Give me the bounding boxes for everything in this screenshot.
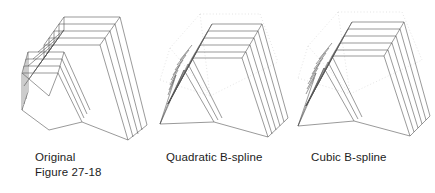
quadratic-bspline-mesh-diagram	[150, 0, 300, 145]
caption-cubic: Cubic B-spline	[311, 150, 387, 165]
panel-cubic	[290, 0, 435, 145]
panel-original	[2, 0, 152, 145]
caption-cubic-line1: Cubic B-spline	[311, 150, 387, 165]
panel-quadratic	[150, 0, 300, 145]
caption-original-line1: Original	[35, 150, 101, 165]
control-polygon-dotted	[298, 12, 422, 94]
caption-quadratic: Quadratic B-spline	[166, 150, 262, 165]
caption-original-line2: Figure 27-18	[35, 165, 101, 180]
caption-quadratic-line1: Quadratic B-spline	[166, 150, 262, 165]
cubic-bspline-mesh-diagram	[290, 0, 435, 145]
caption-original: Original Figure 27-18	[35, 150, 101, 179]
original-mesh-diagram	[2, 0, 152, 145]
